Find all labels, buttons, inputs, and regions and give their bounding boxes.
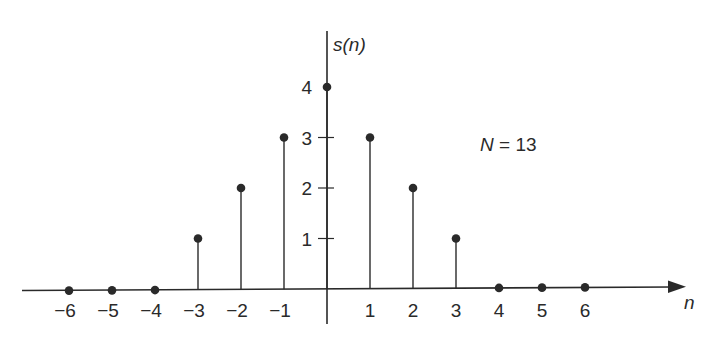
axes (22, 31, 686, 324)
y-tick-label: 1 (301, 229, 312, 250)
x-tick-label: 1 (365, 300, 376, 321)
stem-marker (538, 283, 547, 292)
y-axis-label: s(n) (333, 34, 366, 55)
stems (65, 83, 590, 295)
x-tick-label: 4 (494, 300, 505, 321)
stem-marker (581, 283, 590, 292)
x-tick-label: −3 (183, 300, 205, 321)
stem-marker (366, 133, 375, 142)
stem-marker (280, 133, 289, 142)
labels: 1234−6−5−4−3−2−1123456s(n)nN = 13 (54, 34, 694, 321)
stem-marker (65, 286, 74, 295)
x-tick-label: 6 (580, 300, 591, 321)
ticks (318, 138, 334, 239)
y-tick-label: 3 (301, 128, 312, 149)
x-tick-label: −6 (54, 300, 76, 321)
stem-marker (237, 184, 246, 193)
x-tick-label: 2 (408, 300, 419, 321)
x-tick-label: −4 (140, 300, 162, 321)
stem-marker (409, 184, 418, 193)
stem-marker (323, 83, 332, 92)
annotation-var: N (480, 134, 494, 155)
stem-marker (151, 286, 160, 295)
x-tick-label: 3 (451, 300, 462, 321)
stem-plot: 1234−6−5−4−3−2−1123456s(n)nN = 13 (0, 0, 710, 342)
annotation-n-value: N = 13 (480, 134, 537, 155)
x-tick-label: −5 (97, 300, 119, 321)
stem-marker (452, 234, 461, 243)
x-tick-label: 5 (537, 300, 548, 321)
annotation-value: = 13 (494, 134, 537, 155)
stem-marker (194, 234, 203, 243)
x-axis-line (22, 287, 672, 291)
y-tick-label: 2 (301, 178, 312, 199)
stem-marker (495, 284, 504, 293)
x-tick-label: −1 (269, 300, 291, 321)
y-tick-label: 4 (301, 77, 312, 98)
stem-marker (108, 286, 117, 295)
x-axis-label: n (684, 292, 695, 313)
x-tick-label: −2 (226, 300, 248, 321)
